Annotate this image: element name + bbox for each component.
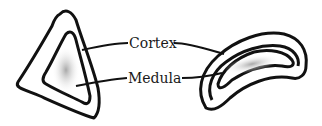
right-medulla-shading [223, 50, 281, 77]
medula-label: Medula [128, 71, 181, 85]
cortex-label: Cortex [129, 36, 177, 50]
medula-leader-left [76, 78, 127, 86]
cortex-leader-right [174, 43, 224, 54]
diagram-drawing [0, 0, 322, 126]
adrenal-diagram: Cortex Medula [0, 0, 322, 126]
left-medulla-shading [52, 46, 80, 94]
cortex-leader-left [82, 43, 128, 50]
